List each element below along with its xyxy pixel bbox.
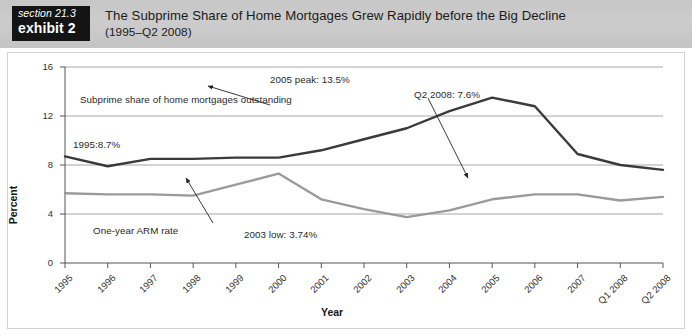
y-tick-label-16: 16	[31, 61, 53, 72]
exhibit-figure-page: section 21.3 exhibit 2 The Subprime Shar…	[0, 0, 692, 336]
figure-frame: Percent Year 048121619951996199719981999…	[7, 52, 685, 329]
exhibit-title-subtitle: (1995–Q2 2008)	[105, 24, 680, 40]
annotation-series-label-subprime: Subprime share of home mortgages outstan…	[80, 94, 292, 105]
leader-line-arm	[186, 178, 213, 223]
exhibit-badge: section 21.3 exhibit 2	[12, 6, 90, 41]
x-axis-ticks	[65, 263, 663, 268]
annotation-leader-lines	[186, 86, 468, 223]
y-axis-title: Percent	[7, 186, 19, 225]
exhibit-title: The Subprime Share of Home Mortgages Gre…	[105, 7, 680, 40]
y-tick-label-0: 0	[31, 257, 53, 268]
annotation-q2-2008: Q2 2008: 7.6%	[414, 89, 480, 100]
leader-line-q2-2008	[428, 98, 468, 178]
annotation-start-1995: 1995:8.7%	[73, 139, 120, 150]
y-tick-label-4: 4	[31, 208, 53, 219]
annotation-peak-2005: 2005 peak: 13.5%	[270, 74, 350, 85]
data-series	[65, 98, 663, 218]
y-axis-ticks	[60, 67, 65, 263]
badge-exhibit-label: exhibit 2	[18, 20, 85, 36]
chart-plot-area: Percent Year 048121619951996199719981999…	[8, 53, 686, 330]
series-line-one-year-arm-rate	[65, 174, 663, 218]
y-tick-label-12: 12	[31, 110, 53, 121]
exhibit-header-band: section 21.3 exhibit 2 The Subprime Shar…	[0, 0, 692, 48]
y-tick-label-8: 8	[31, 159, 53, 170]
annotation-low-2003: 2003 low: 3.74%	[244, 229, 317, 240]
series-line-subprime-share	[65, 98, 663, 170]
annotation-series-label-arm: One-year ARM rate	[93, 225, 178, 236]
badge-section-label: section 21.3	[18, 7, 85, 20]
exhibit-title-main: The Subprime Share of Home Mortgages Gre…	[105, 7, 680, 24]
